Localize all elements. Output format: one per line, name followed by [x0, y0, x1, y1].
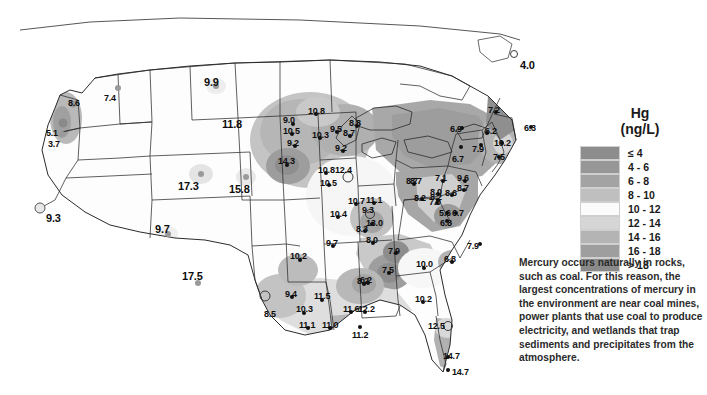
sample-point-value: 7.5 — [493, 153, 505, 162]
sample-point-value: 8.7 — [457, 184, 469, 193]
sample-point-value: 9.2 — [335, 144, 347, 153]
legend-swatch — [580, 230, 620, 244]
legend-title: Hg (ng/L) — [580, 105, 700, 137]
sample-point-value: 8.0 — [366, 236, 378, 245]
sample-point-value: 9.3 — [362, 206, 374, 215]
sample-point-value: 7.2 — [488, 106, 500, 115]
sample-point-value: 7.0 — [429, 198, 441, 207]
legend-label: 16 - 18 — [628, 245, 661, 257]
sample-point-value: 10.2 — [415, 295, 432, 304]
sample-point-value: 11.2 — [352, 331, 368, 340]
sample-point-value: 6.9 — [450, 125, 462, 134]
caption-text: Mercury occurs naturally in rocks, such … — [519, 256, 705, 365]
sample-point-marker — [243, 174, 249, 180]
sample-point-value: 6.7 — [452, 155, 464, 164]
sample-point-value: 6.7 — [452, 209, 464, 218]
sample-point-marker — [198, 171, 204, 177]
legend-row: 14 - 16 — [580, 230, 700, 243]
sample-point-value: 6.8 — [444, 255, 456, 264]
sample-point-value: 15.8 — [229, 184, 250, 195]
sample-point-value: 14.3 — [278, 157, 295, 166]
legend-class-list: ≤ 44 - 66 - 88 - 1010 - 1212 - 1414 - 16… — [580, 146, 700, 271]
sample-point-value: 8.0 — [430, 188, 442, 197]
sample-point-value: 9.0 — [283, 116, 295, 125]
legend-label: 12 - 14 — [628, 217, 661, 229]
sample-point-value: 8.8 — [349, 119, 361, 128]
map-canvas: 8.65.13.77.49.911.817.315.89.39.717.58.5… — [0, 0, 520, 395]
sample-point-marker — [35, 203, 46, 214]
sample-point-value: 9.3 — [46, 213, 61, 224]
legend-swatch — [580, 146, 620, 160]
legend-title-variable: Hg — [631, 105, 650, 121]
legend-title-unit: (ng/L) — [621, 121, 660, 137]
sample-point-value: 9.2 — [287, 139, 299, 148]
mercury-concentration-map: 8.65.13.77.49.911.817.315.89.39.717.58.5… — [0, 0, 707, 395]
sample-point-value: 12.4 — [335, 166, 352, 175]
sample-point-marker — [115, 85, 121, 91]
legend-swatch — [580, 188, 620, 202]
sample-point-value: 10.3 — [312, 131, 329, 140]
legend-label: ≤ 4 — [628, 147, 643, 159]
legend-label: 4 - 6 — [628, 161, 649, 173]
sample-point-value: 11.5 — [314, 292, 330, 301]
sample-point-value: 8.2 — [414, 194, 426, 203]
sample-point-value: 7.4 — [104, 94, 116, 103]
sample-point-value: 9.4 — [285, 290, 297, 299]
sample-point-value: 17.5 — [182, 271, 203, 282]
sample-point-value: 7.1 — [435, 174, 447, 183]
legend-label: 6 - 8 — [628, 175, 649, 187]
sample-point-value: 6.2 — [485, 127, 497, 136]
sample-point-value: 11.6 — [343, 305, 359, 314]
sample-point-value: 11.0 — [322, 321, 338, 330]
us-map-svg — [0, 0, 520, 395]
sample-point-value: 17.3 — [178, 181, 199, 192]
sample-point-value: 14.7 — [452, 368, 469, 377]
sample-point-value: 9.7 — [326, 239, 338, 248]
sample-point-marker — [260, 291, 271, 302]
sample-point-value: 7.5 — [382, 266, 394, 275]
sample-point-value: 6.8 — [440, 219, 452, 228]
legend-row: 8 - 10 — [580, 188, 700, 201]
sample-point-value: 10.2 — [290, 252, 307, 261]
sample-point-value: 14.7 — [443, 352, 460, 361]
sample-point-value: 6.3 — [524, 124, 536, 133]
sample-point-value: 7.9 — [467, 242, 479, 251]
legend-label: 14 - 16 — [628, 231, 661, 243]
sample-point-value: 10.5 — [320, 179, 337, 188]
sample-point-value: 13.0 — [366, 219, 383, 228]
sample-point-value: 9.5 — [330, 125, 342, 134]
sample-point-value: 10.4 — [330, 210, 347, 219]
sample-point-marker — [459, 145, 463, 149]
sample-point-marker — [59, 131, 65, 137]
legend-row: 10 - 12 — [580, 202, 700, 215]
sample-point-value: 5.6 — [439, 209, 451, 218]
concentration-shading — [0, 0, 520, 395]
sample-point-value: 9.6 — [457, 174, 469, 183]
sample-point-marker — [510, 50, 518, 58]
sample-point-value: 10.5 — [283, 127, 300, 136]
sample-point-value: 11.1 — [366, 196, 382, 205]
legend-label: 8 - 10 — [628, 189, 655, 201]
map-legend: Hg (ng/L) ≤ 44 - 66 - 88 - 1010 - 1212 -… — [580, 105, 700, 272]
sample-point-value: 8.6 — [68, 99, 80, 108]
legend-swatch — [580, 160, 620, 174]
legend-swatch — [580, 202, 620, 216]
sample-point-value: 6.2 — [360, 276, 372, 285]
sample-point-value: 4.0 — [520, 60, 535, 71]
sample-point-value: 10.8 — [318, 166, 335, 175]
sample-point-value: 12.5 — [428, 322, 445, 331]
sample-point-value: 11.8 — [222, 119, 242, 130]
legend-label: 10 - 12 — [628, 203, 661, 215]
sample-point-value: 5.1 — [46, 129, 58, 138]
sample-point-value: 8.7 — [410, 177, 422, 186]
sample-point-value: 7.9 — [472, 145, 484, 154]
sample-point-value: 10.2 — [494, 139, 511, 148]
legend-swatch — [580, 174, 620, 188]
sample-point-value: 9.7 — [155, 224, 170, 235]
sample-point-marker — [59, 119, 68, 128]
sample-point-value: 8.5 — [264, 310, 276, 319]
sample-point-value: 10.3 — [296, 305, 313, 314]
caption-block: Mercury occurs naturally in rocks, such … — [519, 256, 705, 365]
sample-point-marker — [446, 368, 450, 372]
sample-point-value: 11.1 — [299, 321, 315, 330]
